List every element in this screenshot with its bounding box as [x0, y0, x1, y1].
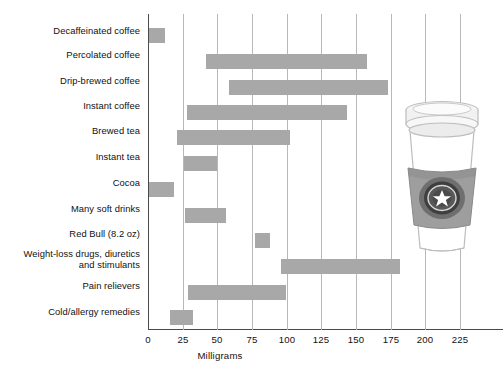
x-tick-200: 200 — [417, 334, 434, 345]
coffee-cup-illustration — [396, 98, 488, 298]
x-tick-225: 225 — [452, 334, 469, 345]
bar-many-soft-drinks — [185, 208, 226, 223]
y-axis-line — [148, 14, 149, 330]
category-label-brewed-tea: Brewed tea — [0, 126, 146, 137]
category-label-many-soft-drinks: Many soft drinks — [0, 204, 146, 215]
category-label-instant-tea: Instant tea — [0, 152, 146, 163]
bar-instant-tea — [184, 156, 217, 171]
category-label-drip-brewed-coffee: Drip-brewed coffee — [0, 76, 146, 87]
category-label-instant-coffee: Instant coffee — [0, 101, 146, 112]
bar-decaffeinated-coffee — [149, 28, 165, 43]
category-label-percolated-coffee: Percolated coffee — [0, 50, 146, 61]
x-tick-25: 25 — [177, 334, 188, 345]
category-label-pain-relievers: Pain relievers — [0, 281, 146, 292]
x-tick-150: 150 — [348, 334, 365, 345]
bar-percolated-coffee — [206, 54, 367, 69]
category-label-cold-allergy-remedies: Cold/allergy remedies — [0, 307, 146, 318]
coffee-cup-svg — [396, 98, 488, 298]
x-tick-175: 175 — [383, 334, 400, 345]
bar-weight-loss-drugs — [281, 259, 400, 274]
x-tick-100: 100 — [279, 334, 296, 345]
bar-drip-brewed-coffee — [229, 80, 388, 95]
gridline-25 — [183, 14, 184, 330]
bar-brewed-tea — [177, 130, 290, 145]
x-axis-title: Milligrams — [0, 350, 440, 361]
x-axis-line — [148, 329, 503, 330]
category-label-decaffeinated-coffee: Decaffeinated coffee — [0, 26, 146, 37]
bar-cold-allergy-remedies — [170, 310, 193, 325]
x-tick-50: 50 — [211, 334, 222, 345]
category-label-weight-loss-drugs: Weight-loss drugs, diuretics and stimula… — [0, 249, 146, 270]
bar-red-bull — [255, 233, 270, 248]
category-label-red-bull: Red Bull (8.2 oz) — [0, 229, 146, 240]
caffeine-range-chart: Decaffeinated coffee Percolated coffee D… — [0, 0, 503, 374]
bar-pain-relievers — [188, 285, 286, 300]
x-tick-125: 125 — [313, 334, 330, 345]
bar-cocoa — [149, 182, 174, 197]
x-tick-0: 0 — [145, 334, 151, 345]
category-axis: Decaffeinated coffee Percolated coffee D… — [0, 0, 146, 330]
category-label-cocoa: Cocoa — [0, 178, 146, 189]
x-axis-ticks: 0 25 50 75 100 125 150 175 200 225 — [0, 334, 503, 350]
gridline-175 — [391, 14, 392, 330]
x-tick-75: 75 — [246, 334, 257, 345]
bar-instant-coffee — [187, 105, 347, 120]
